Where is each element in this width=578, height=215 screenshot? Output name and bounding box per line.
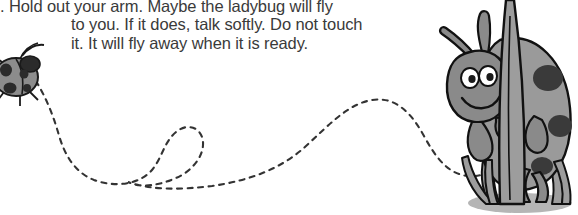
- pupil: [468, 75, 475, 83]
- eye: [479, 66, 497, 86]
- ground-shadow: [468, 193, 572, 213]
- small-ladybug-icon: [0, 43, 44, 106]
- grass-blades-front-icon: [462, 156, 571, 204]
- smile: [462, 96, 500, 108]
- grass-blades-back-icon: [482, 146, 564, 204]
- shell-spot: [531, 157, 553, 175]
- pupil: [486, 73, 493, 81]
- eye: [461, 68, 479, 88]
- worksheet-page: . Hold out your arm. Maybe the ladybug w…: [0, 0, 578, 215]
- grass-blade-main-icon: [499, 0, 524, 204]
- story-line-3: it. It will fly away when it is ready.: [71, 34, 470, 52]
- shell-spot: [533, 65, 563, 91]
- story-text-block: . Hold out your arm. Maybe the ladybug w…: [0, 0, 470, 52]
- story-line-1: . Hold out your arm. Maybe the ladybug w…: [0, 0, 470, 15]
- shell-spot: [548, 115, 572, 137]
- flight-trail-icon: [30, 72, 530, 189]
- story-line-2: to you. If it does, talk softly. Do not …: [71, 15, 470, 33]
